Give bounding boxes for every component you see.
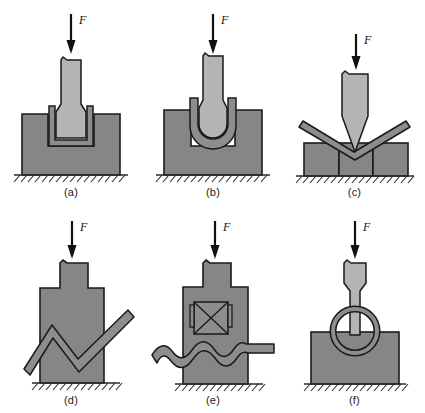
force-label-d: F	[79, 220, 88, 234]
panel-e-diagram: F	[142, 207, 284, 413]
ground-hatching-f	[304, 384, 408, 391]
force-label-c: F	[363, 33, 372, 47]
crossed-box-e	[190, 302, 232, 334]
force-arrow-f	[351, 221, 360, 259]
panel-caption-e: (e)	[142, 394, 284, 406]
punch-a	[56, 57, 86, 138]
panel-c: F	[284, 0, 425, 205]
figure-root: F	[0, 0, 425, 413]
force-arrow-d	[68, 221, 77, 259]
panel-b-diagram: F	[142, 0, 284, 205]
panel-a: F	[0, 0, 142, 205]
force-arrow-a	[67, 14, 76, 54]
ground-hatching-e	[175, 384, 265, 391]
punch-stem-f	[344, 260, 366, 335]
ground-hatching-b	[156, 175, 270, 182]
force-arrow-e	[211, 221, 220, 259]
force-arrow-b	[209, 14, 218, 54]
force-label-a: F	[78, 13, 87, 27]
panel-e: F	[142, 207, 284, 413]
panel-d-diagram: F	[0, 207, 142, 413]
panel-caption-a: (a)	[0, 186, 142, 198]
ground-hatching-c	[296, 176, 414, 183]
panel-d: F (d)	[0, 207, 142, 413]
panel-c-diagram: F	[284, 0, 425, 205]
stepped-die-d	[40, 260, 104, 383]
wedge-punch-c	[342, 71, 368, 152]
force-label-e: F	[222, 220, 231, 234]
panel-b: F	[142, 0, 284, 205]
panel-f: F	[284, 207, 425, 413]
force-label-f: F	[362, 220, 371, 234]
panel-caption-d: (d)	[0, 394, 142, 406]
panel-caption-c: (c)	[284, 186, 425, 198]
panel-f-diagram: F	[284, 207, 425, 413]
anvil-f	[311, 332, 399, 384]
ground-hatching-d	[32, 383, 122, 390]
force-label-b: F	[220, 13, 229, 27]
punch-b	[199, 53, 227, 138]
ground-hatching-a	[14, 175, 128, 182]
panel-caption-f: (f)	[284, 394, 425, 406]
force-arrow-c	[352, 34, 361, 70]
panel-a-diagram: F	[0, 0, 142, 205]
panel-caption-b: (b)	[142, 186, 284, 198]
